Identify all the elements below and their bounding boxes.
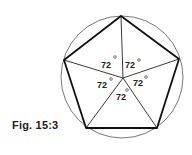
pentagon-diagram: 72 72 72 72 72 — [0, 0, 192, 155]
angle-label-2: 72 — [125, 60, 135, 70]
degree-icon — [126, 89, 129, 92]
angle-label-3: 72 — [97, 80, 107, 90]
figure-caption: Fig. 15:3 — [12, 119, 58, 131]
angle-label-1: 72 — [101, 60, 111, 70]
angle-label-4: 72 — [133, 78, 143, 88]
degree-icon — [114, 56, 117, 59]
angle-label-5: 72 — [116, 92, 126, 102]
degree-icon — [110, 78, 113, 81]
degree-icon — [145, 76, 148, 79]
degree-icon — [138, 59, 141, 62]
